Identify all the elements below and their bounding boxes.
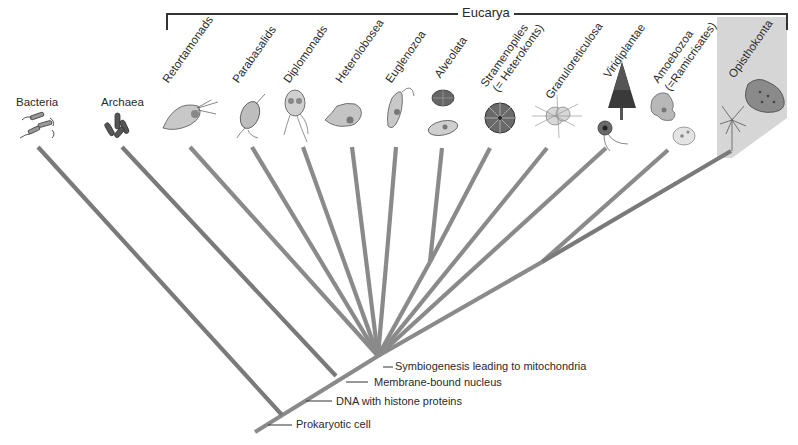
- phylogenetic-tree: Eucarya Bacteria Archaea Retortamonads P…: [0, 0, 798, 445]
- retortamonad-icon: [163, 100, 218, 129]
- eucarya-label: Eucarya: [458, 5, 514, 20]
- granuloreticulosa-icon: [532, 95, 582, 138]
- opisthokonta-branch: [542, 151, 731, 262]
- archaea-icon: [104, 113, 130, 139]
- euglenozoa-branch: [386, 147, 396, 265]
- dna-histone-callout: DNA with histone proteins: [336, 395, 462, 407]
- heterolobosea-icon: [325, 103, 361, 126]
- granuloreticulosa-branch: [378, 148, 547, 356]
- symbiogenesis-callout: Symbiogenesis leading to mitochondria: [395, 360, 586, 372]
- archaea-branch: [122, 147, 336, 376]
- prokaryotic-cell-callout: Prokaryotic cell: [296, 418, 371, 430]
- diplomonad-icon: [284, 90, 308, 142]
- amoeba-icon: [651, 93, 695, 145]
- parabasalid-icon: [237, 94, 265, 138]
- bacteria-icon: [20, 112, 54, 138]
- viridiplantae-branch: [378, 148, 606, 356]
- euglenozoa-icon: [388, 88, 415, 128]
- stramenopile-icon: [485, 103, 515, 133]
- archaea-label: Archaea: [101, 96, 144, 108]
- amoebozoa-branch: [542, 150, 668, 262]
- bacteria-label: Bacteria: [16, 96, 58, 108]
- alveolata-icon: [427, 90, 459, 138]
- membrane-nucleus-callout: Membrane-bound nucleus: [374, 376, 502, 388]
